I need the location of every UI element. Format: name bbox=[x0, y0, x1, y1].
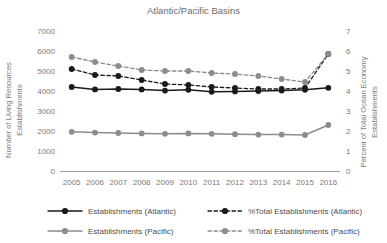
data-point bbox=[115, 130, 121, 136]
data-point bbox=[232, 85, 238, 91]
data-point bbox=[115, 86, 121, 92]
x-tick-label: 2009 bbox=[156, 178, 174, 187]
series-line bbox=[72, 125, 329, 135]
x-tick-label: 2008 bbox=[133, 178, 151, 187]
data-point bbox=[92, 72, 98, 78]
y-tick-label: 6000 bbox=[37, 47, 55, 56]
data-point bbox=[302, 85, 308, 91]
data-point bbox=[185, 68, 191, 74]
data-point bbox=[162, 81, 168, 87]
legend-item[interactable]: %Total Establishments (Atlantic) bbox=[208, 207, 363, 216]
legend-item[interactable]: %Total Establishments (Pacific) bbox=[208, 227, 360, 236]
data-point bbox=[232, 71, 238, 77]
x-tick-label: 2005 bbox=[63, 178, 81, 187]
data-point bbox=[69, 84, 75, 90]
y2-tick-label: 2 bbox=[346, 127, 351, 136]
legend-marker bbox=[222, 228, 228, 234]
data-point bbox=[69, 54, 75, 60]
x-tick-label: 2006 bbox=[86, 178, 104, 187]
data-point bbox=[209, 131, 215, 137]
y-tick-label: 3000 bbox=[37, 107, 55, 116]
legend-label: %Total Establishments (Atlantic) bbox=[248, 207, 363, 216]
legend-item[interactable]: Establishments (Pacific) bbox=[48, 227, 174, 236]
y-axis-title-secondary: Percent of Total Ocean Economy bbox=[359, 56, 368, 167]
legend-label: Establishments (Atlantic) bbox=[88, 207, 176, 216]
data-point bbox=[255, 132, 261, 138]
data-point bbox=[92, 87, 98, 93]
y-axis-title-primary-line2: Establishments bbox=[15, 84, 24, 136]
data-point bbox=[115, 63, 121, 69]
x-tick-label: 2010 bbox=[179, 178, 197, 187]
data-point bbox=[139, 67, 145, 73]
x-tick-label: 2013 bbox=[249, 178, 267, 187]
data-point bbox=[209, 70, 215, 76]
data-point bbox=[209, 84, 215, 90]
data-point bbox=[302, 132, 308, 138]
data-point bbox=[139, 77, 145, 83]
chart-legend: Establishments (Atlantic)Establishments … bbox=[48, 207, 363, 236]
legend-label: Establishments (Pacific) bbox=[88, 227, 174, 236]
y-axis-title-primary: Number of Living Resources bbox=[4, 62, 13, 158]
series-1 bbox=[69, 122, 331, 138]
y-tick-label: 4000 bbox=[37, 87, 55, 96]
series-3 bbox=[69, 51, 331, 85]
data-point bbox=[302, 79, 308, 85]
legend-marker bbox=[62, 228, 68, 234]
y-axis-tick-labels: 01000200030004000500060007000 bbox=[37, 27, 55, 176]
data-series-layer bbox=[69, 51, 331, 138]
data-point bbox=[162, 68, 168, 74]
y-tick-label: 7000 bbox=[37, 27, 55, 36]
data-point bbox=[162, 88, 168, 94]
y2-tick-label: 5 bbox=[346, 67, 351, 76]
legend-label: %Total Establishments (Pacific) bbox=[248, 227, 360, 236]
atlantic-pacific-basins-chart: Atlantic/Pacific Basins Number of Living… bbox=[0, 0, 387, 243]
data-point bbox=[139, 131, 145, 137]
data-point bbox=[232, 131, 238, 137]
y2-tick-label: 0 bbox=[346, 167, 351, 176]
x-tick-label: 2015 bbox=[296, 178, 314, 187]
y2-tick-label: 7 bbox=[346, 27, 351, 36]
x-tick-label: 2016 bbox=[319, 178, 337, 187]
x-tick-label: 2011 bbox=[203, 178, 221, 187]
data-point bbox=[255, 73, 261, 79]
y-axis-title-secondary-line2: Establishments bbox=[370, 86, 379, 138]
data-point bbox=[279, 86, 285, 92]
data-point bbox=[92, 59, 98, 65]
data-point bbox=[162, 131, 168, 137]
data-point bbox=[325, 122, 331, 128]
data-point bbox=[279, 132, 285, 138]
y-tick-label: 2000 bbox=[37, 127, 55, 136]
data-point bbox=[115, 73, 121, 79]
data-point bbox=[255, 86, 261, 92]
x-tick-label: 2007 bbox=[109, 178, 127, 187]
data-point bbox=[185, 82, 191, 88]
y2-tick-label: 1 bbox=[346, 147, 351, 156]
data-point bbox=[279, 76, 285, 82]
y2-tick-label: 6 bbox=[346, 47, 351, 56]
data-point bbox=[139, 87, 145, 93]
y2-axis-tick-labels: 01234567 bbox=[346, 27, 351, 176]
data-point bbox=[325, 85, 331, 91]
data-point bbox=[185, 131, 191, 137]
y-tick-label: 1000 bbox=[37, 147, 55, 156]
series-line bbox=[72, 54, 329, 82]
y-tick-label: 0 bbox=[51, 167, 56, 176]
y2-tick-label: 3 bbox=[346, 107, 351, 116]
legend-marker bbox=[222, 208, 228, 214]
y-tick-label: 5000 bbox=[37, 67, 55, 76]
data-point bbox=[92, 130, 98, 136]
data-point bbox=[325, 51, 331, 57]
legend-item[interactable]: Establishments (Atlantic) bbox=[48, 207, 176, 216]
data-point bbox=[69, 66, 75, 72]
y2-tick-label: 4 bbox=[346, 87, 351, 96]
series-line bbox=[72, 87, 329, 92]
x-tick-label: 2014 bbox=[273, 178, 291, 187]
legend-marker bbox=[62, 208, 68, 214]
x-tick-label: 2012 bbox=[226, 178, 244, 187]
x-axis-tick-labels: 2005200620072008200920102011201220132014… bbox=[63, 178, 338, 187]
chart-title: Atlantic/Pacific Basins bbox=[147, 5, 240, 16]
data-point bbox=[69, 129, 75, 135]
chart-container: Atlantic/Pacific Basins Number of Living… bbox=[0, 0, 387, 243]
